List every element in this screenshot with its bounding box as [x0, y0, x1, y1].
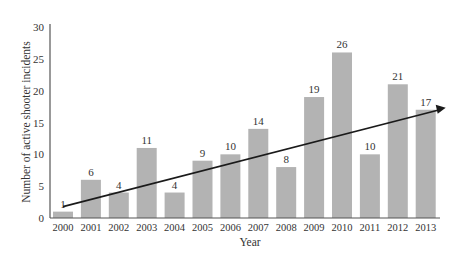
bar-value-label: 4	[172, 179, 178, 191]
bar-value-label: 8	[283, 153, 289, 165]
y-tick-label: 0	[39, 212, 45, 224]
bar-2009	[304, 97, 324, 218]
bar-2000	[53, 212, 73, 218]
bar-value-label: 14	[253, 115, 265, 127]
bar-value-label: 10	[225, 140, 237, 152]
bar-2007	[248, 129, 268, 218]
bar-value-label: 9	[200, 147, 206, 159]
bar-2002	[109, 193, 129, 218]
x-tick-label: 2011	[360, 222, 381, 233]
bar-2013	[416, 110, 436, 218]
x-tick-label: 2003	[136, 222, 157, 233]
bar-value-label: 6	[88, 166, 94, 178]
arrowhead-icon	[436, 105, 446, 114]
bar-value-label: 19	[309, 83, 321, 95]
bar-value-label: 10	[364, 140, 376, 152]
bar-2008	[276, 167, 296, 218]
bar-2011	[360, 154, 380, 218]
x-tick-label: 2001	[80, 222, 101, 233]
bar-value-label: 1	[60, 198, 66, 210]
x-tick-label: 2006	[220, 222, 241, 233]
bar-chart: 051015202530 1641149101481926102117 2000…	[0, 0, 466, 260]
y-tick-label: 10	[33, 148, 45, 160]
x-tick-label: 2010	[332, 222, 353, 233]
bar-value-label: 11	[141, 134, 152, 146]
bar-value-label: 4	[116, 179, 122, 191]
bar-value-label: 17	[420, 96, 432, 108]
bars: 1641149101481926102117	[53, 38, 436, 218]
x-tick-label: 2012	[387, 222, 408, 233]
y-tick-label: 15	[33, 117, 45, 129]
x-tick-label: 2000	[53, 222, 74, 233]
x-tick-label: 2002	[108, 222, 129, 233]
x-tick-label: 2008	[276, 222, 297, 233]
x-axis-label: Year	[239, 236, 260, 248]
y-tick-label: 25	[33, 53, 45, 65]
x-tick-label: 2004	[164, 222, 186, 233]
y-tick-label: 30	[33, 21, 45, 33]
bar-value-label: 21	[392, 70, 403, 82]
bar-2012	[388, 84, 408, 218]
x-tick-label: 2013	[415, 222, 436, 233]
y-axis: 051015202530	[33, 21, 50, 224]
y-tick-label: 5	[39, 180, 45, 192]
x-axis: 2000200120022003200420052006200720082009…	[50, 218, 440, 233]
x-tick-label: 2007	[248, 222, 269, 233]
x-tick-label: 2005	[192, 222, 213, 233]
bar-value-label: 26	[337, 38, 349, 50]
bar-2004	[165, 193, 185, 218]
y-tick-label: 20	[33, 85, 45, 97]
y-axis-label: Number of active shooter incidents	[20, 41, 32, 203]
x-tick-label: 2009	[304, 222, 325, 233]
